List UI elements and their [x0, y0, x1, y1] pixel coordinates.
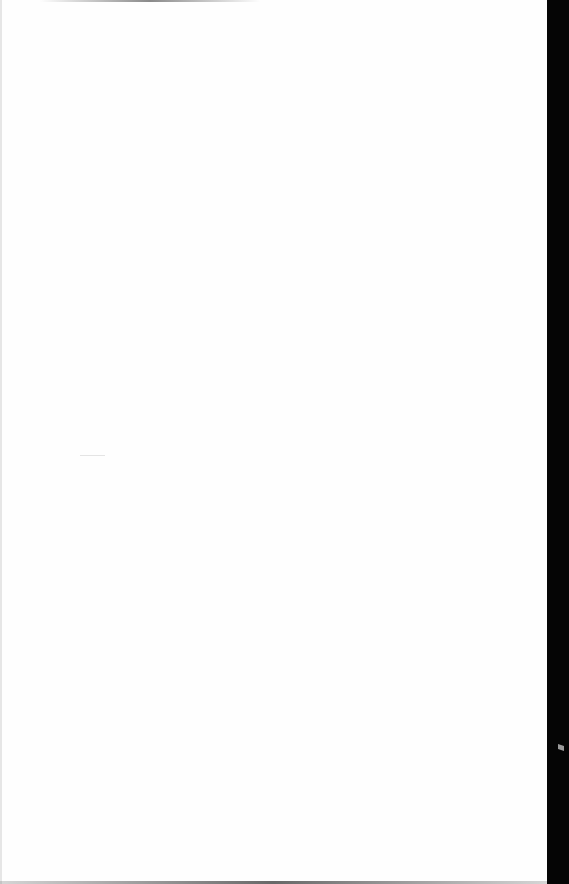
scanner-border: [547, 0, 569, 884]
top-scan-shadow: [40, 0, 260, 2]
page-left-edge: [0, 0, 2, 884]
blank-page: [0, 0, 547, 884]
bleed-through-mark: [80, 455, 105, 456]
